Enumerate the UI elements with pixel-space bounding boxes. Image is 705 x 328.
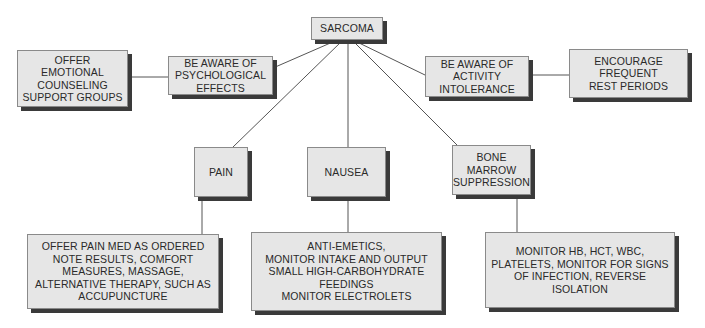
edge-root-activity bbox=[355, 41, 425, 75]
node-sarcoma: SARCOMA bbox=[311, 17, 383, 40]
node-psychological-effects: BE AWARE OF PSYCHOLOGICAL EFFECTS bbox=[168, 56, 273, 95]
node-activity-intolerance: BE AWARE OF ACTIVITY INTOLERANCE bbox=[425, 56, 529, 97]
node-rest-periods: ENCOURAGE FREQUENT REST PERIODS bbox=[569, 49, 688, 98]
node-emotional-counseling: OFFER EMOTIONAL COUNSELING SUPPORT GROUP… bbox=[17, 50, 128, 107]
node-nausea: NAUSEA bbox=[307, 147, 386, 197]
node-bone-marrow-suppression: BONE MARROW SUPPRESSION bbox=[452, 145, 531, 195]
node-nausea-actions: ANTI-EMETICS, MONITOR INTAKE AND OUTPUT … bbox=[251, 232, 442, 311]
node-pain: PAIN bbox=[194, 147, 248, 197]
node-bone-marrow-actions: MONITOR HB, HCT, WBC, PLATELETS, MONITOR… bbox=[485, 232, 675, 308]
edge-root-psych bbox=[273, 41, 335, 68]
node-pain-actions: OFFER PAIN MED AS ORDERED NOTE RESULTS, … bbox=[27, 234, 219, 309]
